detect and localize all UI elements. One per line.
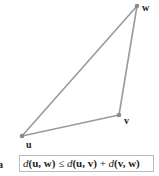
label-u: u bbox=[26, 139, 32, 150]
triangle-inequality-formula: d(u, w) ≤ d(u, v) + d(v, w) bbox=[19, 155, 154, 172]
args-2: (u, v) bbox=[72, 157, 96, 169]
point-w bbox=[135, 4, 140, 9]
edge-u-v bbox=[22, 115, 119, 136]
point-v bbox=[117, 113, 122, 118]
label-w: w bbox=[142, 2, 150, 13]
triangle-diagram: u v w bbox=[0, 0, 159, 176]
plus-sign: + bbox=[97, 157, 109, 169]
point-u bbox=[20, 134, 25, 139]
args-1: (u, w) bbox=[29, 157, 56, 169]
partial-label: a bbox=[0, 159, 3, 170]
label-v: v bbox=[124, 115, 129, 126]
relation: ≤ bbox=[55, 157, 67, 169]
args-3: (v, w) bbox=[114, 157, 140, 169]
